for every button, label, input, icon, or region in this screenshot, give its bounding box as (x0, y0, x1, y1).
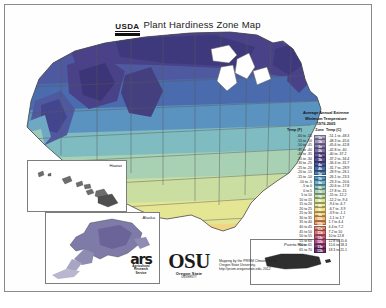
legend-zone-swatch: 13b (314, 248, 326, 252)
legend-row: 65 to 7013b18.3 to 21.1 (286, 248, 366, 253)
legend-row: 25 to 309b-3.9 to -1.1 (286, 212, 366, 217)
osu-logo: OSU Oregon State UNIVERSITY (163, 251, 215, 279)
legend-rows: -60 to -551a-51.1 to -48.3-55 to -501b-4… (286, 135, 366, 253)
legend-temp-c: -26.1 to -23.3 (326, 176, 361, 180)
legend-row: 40 to 4511a4.4 to 7.2 (286, 226, 366, 231)
legend-temp-c: 4.4 to 7.2 (326, 226, 361, 230)
legend-header-line3: 1976-2005 (286, 121, 366, 127)
legend-temp-f: -15 to -10 (286, 176, 314, 180)
legend-row: 35 to 4010b1.7 to 4.4 (286, 221, 366, 226)
legend-row: 45 to 5011b7.2 to 10 (286, 230, 366, 235)
legend-row: 10 to 158a-12.2 to -9.4 (286, 198, 366, 203)
legend-row: 60 to 6513a15.6 to 18.3 (286, 244, 366, 249)
inset-hawaii: Hawaii (27, 160, 127, 212)
legend-temp-c: 18.3 to 21.1 (326, 249, 361, 253)
legend-column-headers: Temp (F) Zone Temp (C) (286, 129, 366, 133)
legend-row: 30 to 3510a-1.1 to 1.7 (286, 216, 366, 221)
legend-row: -15 to -105b-26.1 to -23.3 (286, 175, 366, 180)
legend-row: 0 to 57a-17.8 to -15 (286, 189, 366, 194)
legend-temp-f: 40 to 45 (286, 226, 314, 230)
osu-wordmark: OSU (163, 251, 215, 271)
ars-logo: ars Agricultural Research Service (123, 253, 159, 275)
legend: Average Annual Extreme Minimum Temperatu… (286, 110, 366, 253)
legend-temp-f: 65 to 70 (286, 249, 314, 253)
legend-row: 20 to 259a-6.7 to -3.9 (286, 207, 366, 212)
legend-row: -5 to 06b-20.6 to -17.8 (286, 185, 366, 190)
legend-col-celsius: Temp (C) (326, 129, 356, 133)
inset-alaska-label: Alaska (142, 215, 155, 220)
legend-col-fahrenheit: Temp (F) (287, 129, 313, 133)
legend-row: -10 to -56a-23.3 to -20.6 (286, 180, 366, 185)
hawaii-islands (28, 161, 126, 211)
osu-university-label: UNIVERSITY (163, 276, 215, 279)
legend-col-zone: Zone (313, 129, 326, 133)
credits-block: ars Agricultural Research Service OSU Or… (123, 251, 278, 287)
ars-line3: Service (123, 272, 159, 275)
inset-hawaii-label: Hawaii (109, 163, 122, 168)
attribution-text: Mapping by the PRISM Climate Group, Oreg… (219, 259, 279, 271)
legend-row: 50 to 5512a10 to 12.8 (286, 235, 366, 240)
legend-row: 5 to 107b-15 to -12.2 (286, 194, 366, 199)
legend-header: Average Annual Extreme Minimum Temperatu… (286, 110, 366, 127)
poster-frame: USDA Plant Hardiness Zone Map (4, 4, 372, 292)
legend-row: 15 to 208b-9.4 to -6.7 (286, 203, 366, 208)
legend-row: 55 to 6012b12.8 to 15.6 (286, 239, 366, 244)
